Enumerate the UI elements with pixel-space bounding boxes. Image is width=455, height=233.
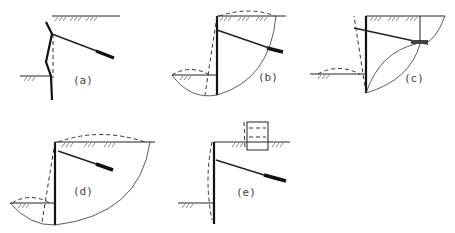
anchor-grout-body xyxy=(267,48,283,52)
panel-label-b: (b) xyxy=(258,71,278,84)
toe-heave xyxy=(172,70,210,76)
panel-label-a: (a) xyxy=(73,74,93,87)
panel-c: (c) xyxy=(310,16,445,93)
anchor-tendon xyxy=(217,30,275,50)
panel-e: (e) xyxy=(178,122,290,224)
surcharge-building xyxy=(247,122,268,150)
anchored-wall-failure-diagram: (a) (b) (c) xyxy=(0,0,455,233)
deformed-wall xyxy=(46,22,52,100)
panel-label-d: (d) xyxy=(73,185,93,198)
ground-heave xyxy=(219,11,275,16)
panel-d: (d) xyxy=(10,135,155,226)
slip-surface-upper xyxy=(366,44,416,93)
panel-b: (b) xyxy=(172,11,286,96)
panel-label-e: (e) xyxy=(236,186,256,199)
slip-surface xyxy=(10,142,150,225)
anchor-grout-body xyxy=(96,51,114,58)
displaced-wall xyxy=(205,16,217,95)
slip-surface-lower xyxy=(366,44,420,93)
panel-label-c: (c) xyxy=(404,72,424,85)
panel-a: (a) xyxy=(20,16,120,100)
rotated-wall xyxy=(354,16,366,93)
